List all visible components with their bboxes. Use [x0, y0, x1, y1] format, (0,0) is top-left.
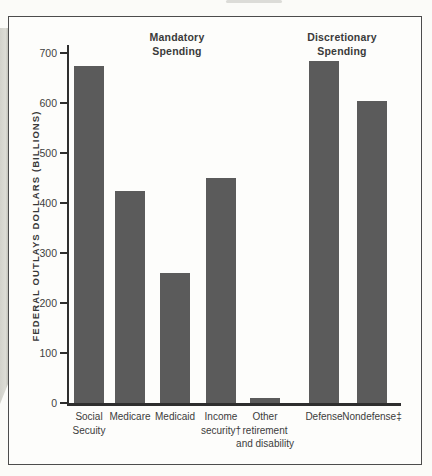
bar [160, 273, 190, 403]
y-tick-mark [60, 402, 67, 404]
cropped-fragment [226, 0, 282, 3]
y-tick-label: 200 [23, 296, 57, 310]
y-tick-mark [60, 352, 67, 354]
y-tick-mark [60, 302, 67, 304]
y-tick-label: 700 [23, 46, 57, 60]
bar [357, 101, 387, 404]
y-tick-mark [60, 252, 67, 254]
chart-frame: FEDERAL OUTLAYS DOLLARS (BILLIONS) Manda… [8, 16, 422, 465]
y-tick-mark [60, 102, 67, 104]
y-tick-mark [60, 202, 67, 204]
x-axis-label: Nondefense‡ [327, 410, 417, 424]
x-axis-labels: Social SecuityMedicareMedicaidIncome sec… [9, 410, 423, 462]
plot-area: 0100200300400500600700 [67, 45, 401, 406]
y-tick-label: 0 [23, 396, 57, 410]
y-tick-label: 300 [23, 246, 57, 260]
y-tick-label: 600 [23, 96, 57, 110]
y-tick-label: 500 [23, 146, 57, 160]
y-tick-label: 100 [23, 346, 57, 360]
bar [115, 191, 145, 404]
scanned-page: FEDERAL OUTLAYS DOLLARS (BILLIONS) Manda… [0, 0, 432, 476]
page-edge-shadow [0, 28, 8, 404]
y-tick-mark [60, 152, 67, 154]
y-axis-title: FEDERAL OUTLAYS DOLLARS (BILLIONS) [30, 76, 44, 376]
bar [206, 178, 236, 403]
bar [74, 66, 104, 404]
y-tick-mark [60, 52, 67, 54]
bar [250, 398, 280, 403]
bar [309, 61, 339, 404]
y-tick-label: 400 [23, 196, 57, 210]
